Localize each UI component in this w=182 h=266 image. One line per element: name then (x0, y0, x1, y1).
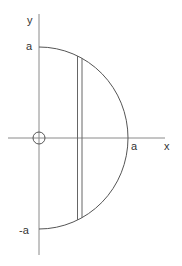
right-a-label: a (131, 140, 138, 152)
y-axis-label: y (27, 14, 33, 26)
semicircle-diagram: y a a x -a (0, 0, 182, 266)
top-a-label: a (26, 40, 33, 52)
x-axis-label: x (164, 140, 170, 152)
bottom-neg-a-label: -a (19, 224, 30, 236)
